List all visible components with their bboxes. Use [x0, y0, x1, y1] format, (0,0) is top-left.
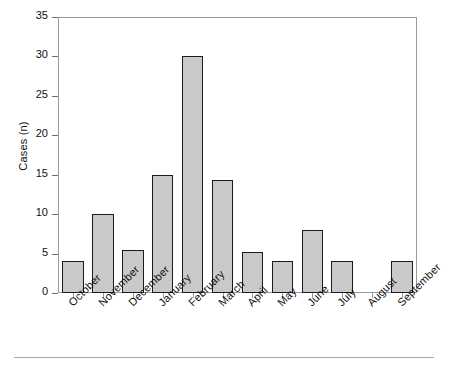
y-tick-label: 25 — [36, 88, 48, 100]
y-tick-mark — [52, 293, 58, 294]
bottom-divider — [14, 357, 434, 358]
y-tick-label: 0 — [42, 285, 48, 297]
y-tick-label: 20 — [36, 127, 48, 139]
y-tick-label: 15 — [36, 167, 48, 179]
y-tick-label: 30 — [36, 48, 48, 60]
y-axis-title: Cases (n) — [17, 101, 29, 191]
bar-chart-figure: Cases (n) 05101520253035 OctoberNovember… — [0, 0, 449, 369]
bars-group — [58, 17, 417, 293]
bar-february — [182, 56, 204, 293]
y-tick-label: 5 — [42, 246, 48, 258]
y-tick-label: 10 — [36, 206, 48, 218]
y-tick-label: 35 — [36, 9, 48, 21]
